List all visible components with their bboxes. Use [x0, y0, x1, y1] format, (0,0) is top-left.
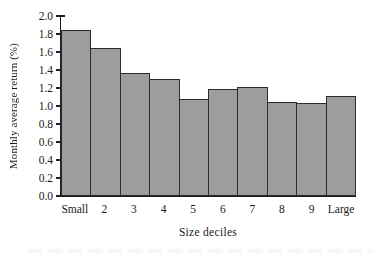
bar-6 [208, 89, 238, 196]
y-tick-label: 1.4 [15, 65, 53, 76]
bar-5 [179, 99, 209, 196]
cropped-caption-remnant [28, 249, 372, 253]
bar-small [61, 30, 91, 196]
y-tick-label: 1.2 [15, 83, 53, 94]
bar-large [326, 96, 356, 196]
y-tick-label: 0.8 [15, 119, 53, 130]
bar-4 [149, 79, 179, 196]
x-tick-label: Small [60, 203, 90, 215]
bar-8 [267, 102, 297, 197]
x-tick-label: 2 [90, 203, 120, 215]
y-tick-label: 0.2 [15, 173, 53, 184]
bar-9 [296, 103, 326, 196]
y-tick-label: 0.6 [15, 137, 53, 148]
x-tick-label: 9 [297, 203, 327, 215]
bar-3 [120, 73, 150, 196]
x-tick-label: 5 [178, 203, 208, 215]
y-tick-label: 1.6 [15, 47, 53, 58]
bar-2 [90, 48, 120, 197]
bars-container [61, 16, 356, 196]
x-tick-label: 8 [267, 203, 297, 215]
plot-area: 2.01.81.61.41.21.00.80.60.40.20.0 [60, 16, 356, 197]
y-tick-label: 2.0 [15, 11, 53, 22]
x-tick-label: 6 [208, 203, 238, 215]
x-axis-title: Size deciles [60, 226, 356, 238]
x-tick-label: Large [326, 203, 356, 215]
size-decile-bar-chart: Monthly average return (%) 2.01.81.61.41… [0, 0, 388, 254]
y-tick-label: 1.0 [15, 101, 53, 112]
x-tick-label: 3 [119, 203, 149, 215]
x-axis-tick-labels: Small23456789Large [60, 203, 356, 215]
x-tick-label: 4 [149, 203, 179, 215]
y-tick-label: 0.4 [15, 155, 53, 166]
bar-7 [237, 87, 267, 196]
y-tick-label: 0.0 [15, 191, 53, 202]
y-tick-label: 1.8 [15, 29, 53, 40]
x-tick-label: 7 [238, 203, 268, 215]
